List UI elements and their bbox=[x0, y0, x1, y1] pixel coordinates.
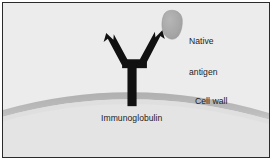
label-native-antigen: Native antigen bbox=[189, 15, 218, 98]
figure-container: Native antigen Cell wall Immunoglobulin bbox=[0, 0, 274, 163]
label-immunoglobulin: Immunoglobulin bbox=[101, 113, 162, 123]
label-cell-wall: Cell wall bbox=[195, 96, 227, 106]
diagram-canvas bbox=[3, 3, 269, 157]
antibody-stem bbox=[127, 62, 136, 106]
label-native-antigen-line1: Native bbox=[189, 36, 218, 46]
diagram-frame: Native antigen Cell wall Immunoglobulin bbox=[2, 2, 270, 158]
label-native-antigen-line2: antigen bbox=[189, 67, 218, 77]
native-antigen-blob bbox=[162, 10, 182, 39]
